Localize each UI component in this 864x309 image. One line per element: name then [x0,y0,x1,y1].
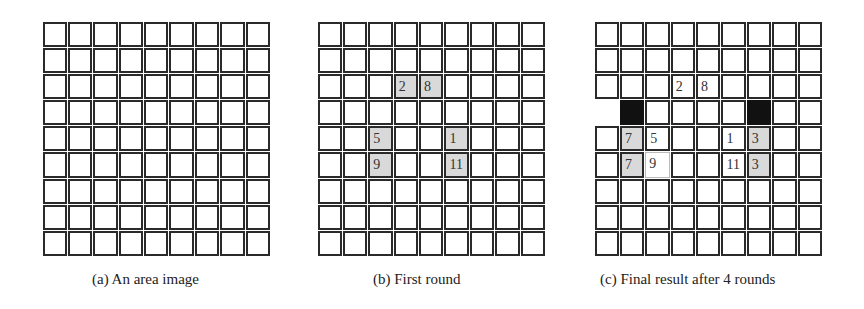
grid-cell [169,231,193,256]
grid-cell [645,48,669,73]
grid-cell [169,22,193,47]
grid-cell: 8 [419,74,443,99]
grid-cell [394,179,418,204]
grid-cell [220,231,244,256]
grid-cell [620,48,644,73]
grid-cell [68,205,92,230]
grid-cell [343,48,367,73]
grid-cell [93,126,117,151]
grid-cell [119,22,143,47]
grid-cell [246,231,270,256]
grid-cell [470,152,494,177]
grid-cell [43,48,67,73]
grid-cell [68,152,92,177]
grid-cell [444,74,468,99]
grid-cell [246,205,270,230]
grid-cell: 9 [368,152,392,177]
grid-cell [93,231,117,256]
grid-cell [343,152,367,177]
grid-cell [394,100,418,125]
grid-cell [645,205,669,230]
grid-cell [169,179,193,204]
grid-cell [93,100,117,125]
grid-cell [521,205,545,230]
grid-cell [444,179,468,204]
grid-cell [721,231,745,256]
grid-cell [772,126,796,151]
grid-cell [798,126,822,151]
grid-cell [495,126,519,151]
grid-cell [521,100,545,125]
grid-cell [343,126,367,151]
grid-cell [620,74,644,99]
grid-cell [444,100,468,125]
grid-cell [368,205,392,230]
grid-cell [68,74,92,99]
grid-cell [318,22,342,47]
grid-cell: 11 [444,152,468,177]
grid-cell [43,126,67,151]
grid-cell [144,74,168,99]
grid-cell [318,48,342,73]
grid-cell [343,100,367,125]
grid-cell [220,48,244,73]
grid-cell [595,231,619,256]
grid-cell [772,205,796,230]
grid-cell [495,22,519,47]
grid-cell [368,48,392,73]
grid-cell [721,179,745,204]
grid-cell [246,48,270,73]
grid-cell [144,126,168,151]
grid-cell [43,231,67,256]
grid-cell [195,48,219,73]
caption-b: (b) First round [373,271,461,288]
grid-cell [798,179,822,204]
grid-cell [169,205,193,230]
grid-cell [246,126,270,151]
grid-cell [43,100,67,125]
grid-cell [318,152,342,177]
grid-cell [169,74,193,99]
grid-cell [798,74,822,99]
grid-cell [394,48,418,73]
grid-cell [620,205,644,230]
grid-cell [620,179,644,204]
grid-cell [671,100,695,125]
grid-cell: 11 [721,152,745,177]
grid-cell [671,22,695,47]
grid-cell: 1 [444,126,468,151]
grid-cell [220,100,244,125]
grid-cell [721,22,745,47]
grid-cell [798,152,822,177]
panel-c: 28751379113 [594,21,824,257]
grid-cell [772,179,796,204]
grid-cell [798,22,822,47]
grid-cell [798,231,822,256]
grid-cell [671,152,695,177]
grid-cell [495,205,519,230]
grid-cell [595,100,619,125]
grid-cell [772,100,796,125]
grid-cell [696,205,720,230]
grid-cell [394,205,418,230]
grid-cell [195,22,219,47]
grid-cell [419,231,443,256]
grid-cell [620,100,644,125]
grid-cell [419,48,443,73]
grid-cell [521,126,545,151]
grid-cell [368,100,392,125]
grid-cell [470,74,494,99]
grid-cell [470,100,494,125]
grid-cell [444,22,468,47]
grid-cell [195,231,219,256]
grid-cell [747,48,771,73]
grid-cell [696,152,720,177]
grid-cell [394,22,418,47]
grid-cell [318,100,342,125]
grid-b: 2851911 [317,21,546,257]
grid-cell [68,100,92,125]
grid-cell [93,22,117,47]
grid-cell [595,48,619,73]
grid-cell [144,100,168,125]
grid-cell [93,74,117,99]
